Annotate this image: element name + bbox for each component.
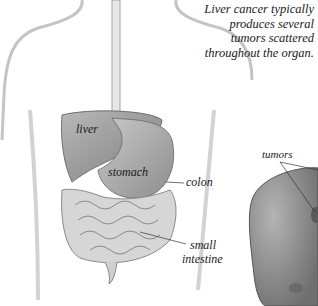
tumor-2 [289,283,303,293]
label-intestine: intestine [182,252,223,267]
caption-text: Liver cancer typically produces several … [194,2,314,60]
label-colon: colon [186,175,213,190]
label-tumors: tumors [262,148,293,160]
label-stomach: stomach [108,165,148,180]
colon-leader [166,182,184,183]
label-small: small [190,238,216,253]
label-liver: liver [76,122,98,137]
esophagus [112,0,120,118]
liver-large [249,168,318,306]
